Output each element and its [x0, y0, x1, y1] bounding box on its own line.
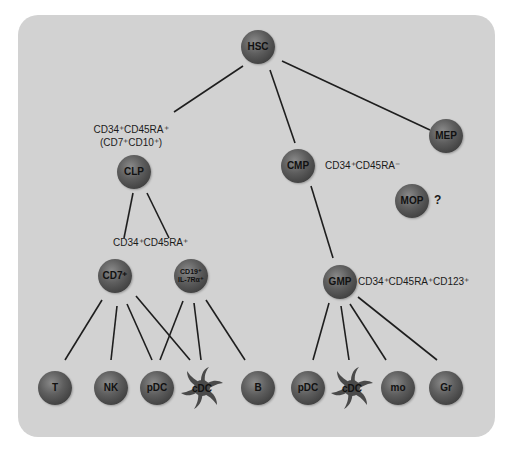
- edge-hsc-mep: [282, 61, 430, 130]
- node-cmp-label: CMP: [287, 161, 309, 171]
- node-pdc-myeloid-label: pDC: [298, 383, 319, 393]
- node-gr-label: Gr: [440, 383, 452, 393]
- node-b: B: [241, 371, 275, 405]
- node-mo: mo: [381, 371, 415, 405]
- node-mep: MEP: [429, 119, 463, 153]
- edge-cd7-nk: [111, 306, 117, 360]
- node-t-label: T: [52, 383, 58, 393]
- node-nk: NK: [94, 371, 128, 405]
- edge-cd7-t: [65, 300, 102, 360]
- node-hsc: HSC: [241, 30, 275, 64]
- edge-cd19-pdc: [160, 301, 183, 360]
- node-gr: Gr: [429, 371, 463, 405]
- lymphoid-branch-marker: CD34⁺CD45RA⁺: [113, 237, 188, 250]
- node-cdc-myeloid-label: cDC: [342, 383, 362, 394]
- node-mop: MOP: [395, 184, 429, 218]
- node-gmp-label: GMP: [329, 277, 352, 287]
- edge-hsc-clp: [174, 66, 243, 112]
- node-cd19-label-line1: CD19⁺: [178, 268, 204, 276]
- edge-gmp-mo: [350, 304, 386, 360]
- cmp-marker-label: CD34⁺CD45RA⁻: [325, 160, 400, 173]
- node-cd7: CD7⁺: [98, 259, 132, 293]
- node-t: T: [38, 371, 72, 405]
- clp-marker-line1: CD34⁺CD45RA⁺: [93, 124, 168, 137]
- edge-gmp-cdc: [341, 306, 349, 360]
- node-cmp: CMP: [281, 149, 315, 183]
- edge-cd19-b: [206, 300, 245, 360]
- mop-question-mark: ?: [434, 193, 441, 208]
- edge-cmp-gmp: [311, 186, 333, 258]
- node-pdc-lymphoid-label: pDC: [147, 383, 168, 393]
- edge-gmp-pdc: [313, 303, 329, 360]
- edge-cd7-pdc: [127, 304, 152, 360]
- node-b-label: B: [254, 383, 261, 393]
- clp-marker-line2: (CD7⁺CD10⁺): [93, 137, 168, 150]
- node-cd19-il7ra: CD19⁺ IL-7Rα⁺: [174, 259, 208, 293]
- edge-cd19-cdc: [194, 303, 201, 360]
- clp-marker-label: CD34⁺CD45RA⁺ (CD7⁺CD10⁺): [93, 124, 168, 149]
- node-clp: CLP: [117, 155, 151, 189]
- node-nk-label: NK: [104, 383, 118, 393]
- node-mo-label: mo: [391, 383, 406, 393]
- node-pdc-lymphoid: pDC: [140, 371, 174, 405]
- node-cd7-label: CD7⁺: [102, 271, 127, 281]
- node-cdc-lymphoid: cDC: [179, 365, 225, 411]
- node-clp-label: CLP: [124, 167, 144, 177]
- edge-clp-right: [147, 193, 169, 238]
- node-pdc-myeloid: pDC: [291, 371, 325, 405]
- node-gmp: GMP: [323, 265, 357, 299]
- gmp-marker-label: CD34⁺CD45RA⁺CD123⁺: [358, 276, 469, 289]
- node-hsc-label: HSC: [247, 42, 268, 52]
- edge-clp-left: [124, 193, 133, 238]
- node-mep-label: MEP: [435, 131, 457, 141]
- node-cdc-lymphoid-label: cDC: [192, 383, 212, 394]
- edge-hsc-cmp: [270, 70, 295, 143]
- node-cd19-label-line2: IL-7Rα⁺: [178, 276, 204, 284]
- node-mop-label: MOP: [401, 196, 424, 206]
- node-cdc-myeloid: cDC: [329, 365, 375, 411]
- edge-gmp-gr: [358, 297, 437, 360]
